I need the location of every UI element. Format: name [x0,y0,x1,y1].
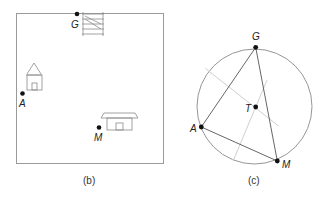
label-c-T: T [245,103,252,114]
label-c-G: G [252,31,260,42]
point-M-icon [97,125,102,130]
label-c-M: M [282,159,291,170]
point-M-icon [275,159,280,164]
figure-c: G A M T (c) [189,31,312,186]
caption-c: (c) [248,175,260,186]
perpendicular-bisector-AM [234,80,268,160]
label-b-G: G [71,19,79,30]
point-G-icon [253,45,258,50]
point-A-icon [20,91,25,96]
label-b-M: M [94,132,103,143]
house-near-M-icon [101,113,138,130]
point-T-icon [253,105,258,110]
building-near-G-icon [82,12,104,36]
triangle-GAM [201,47,277,161]
label-c-A: A [189,123,197,134]
house-near-A-icon [26,63,42,90]
map-square [17,14,164,164]
point-A-icon [199,125,204,130]
perpendicular-bisector-AG [206,69,279,127]
figure-b: G A M (b) [17,12,164,186]
caption-b: (b) [83,175,95,186]
point-G-icon [75,12,80,17]
diagram-canvas: G A M (b) [0,0,327,198]
label-b-A: A [18,98,26,109]
